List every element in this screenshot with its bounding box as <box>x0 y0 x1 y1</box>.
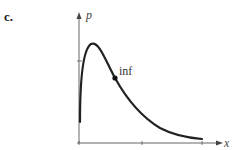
y-axis-arrow-icon <box>77 12 82 19</box>
chart: p x inf <box>0 0 232 150</box>
x-axis-arrow-icon <box>216 141 223 146</box>
inflection-label: inf <box>119 64 132 78</box>
inflection-point-marker <box>112 75 117 80</box>
x-axis-label: x <box>223 136 230 150</box>
y-axis-label: p <box>85 8 92 22</box>
density-curve <box>80 44 202 139</box>
